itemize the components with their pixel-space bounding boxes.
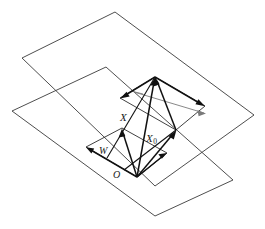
label-vector-x0: X0 [146, 133, 157, 145]
vector-x [137, 77, 157, 177]
label-vector-w: W [99, 146, 107, 156]
diagram-canvas [0, 0, 265, 229]
label-x0-base: X [146, 132, 153, 144]
label-vector-x: X [120, 112, 127, 123]
label-x0-subscript: 0 [153, 137, 157, 146]
label-origin: O [113, 170, 120, 180]
figure-root: X X0 W O [0, 0, 265, 229]
lower-plane-outline [12, 67, 233, 216]
vector-subspace-upper-right [155, 77, 205, 106]
vector-w [119, 128, 137, 177]
upper-subspace-outline [120, 77, 205, 130]
